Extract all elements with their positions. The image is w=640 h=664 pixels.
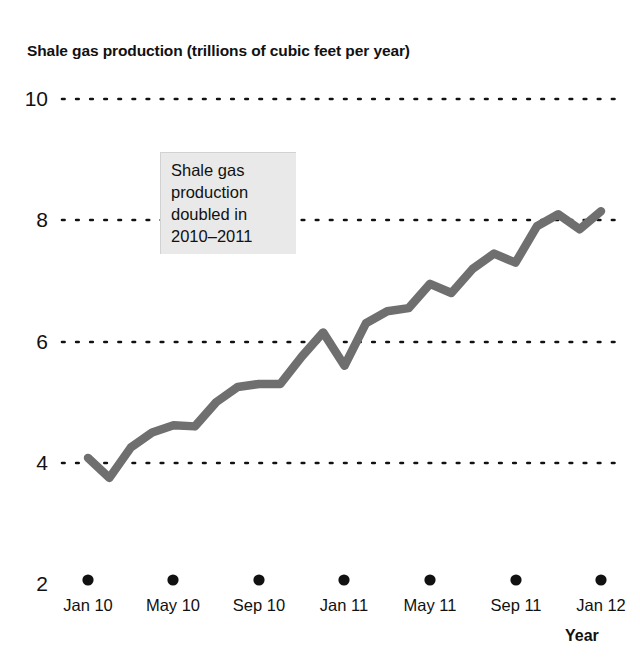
x-tick-markers xyxy=(82,574,606,585)
x-tick-label-jan-11: Jan 11 xyxy=(299,596,389,615)
y-tick-label-4: 4 xyxy=(8,451,48,475)
x-tick-label-may-10: May 10 xyxy=(128,596,218,615)
y-tick-label-8: 8 xyxy=(8,208,48,232)
y-tick-label-2: 2 xyxy=(8,572,48,596)
gridlines xyxy=(62,99,618,463)
x-tick-label-sep-11: Sep 11 xyxy=(471,596,561,615)
annotation-callout: Shale gas production doubled in 2010–201… xyxy=(160,152,296,254)
x-tick-label-jan-10: Jan 10 xyxy=(43,596,133,615)
x-tick-label-sep-10: Sep 10 xyxy=(214,596,304,615)
x-axis-title: Year xyxy=(565,627,599,645)
y-tick-label-10: 10 xyxy=(8,87,48,111)
chart-title: Shale gas production (trillions of cubic… xyxy=(27,42,410,60)
y-tick-label-6: 6 xyxy=(8,330,48,354)
plot-area xyxy=(0,0,640,664)
x-tick-label-may-11: May 11 xyxy=(385,596,475,615)
x-tick-label-jan-12: Jan 12 xyxy=(556,596,640,615)
shale-gas-production-chart: Shale gas production (trillions of cubic… xyxy=(0,0,640,664)
